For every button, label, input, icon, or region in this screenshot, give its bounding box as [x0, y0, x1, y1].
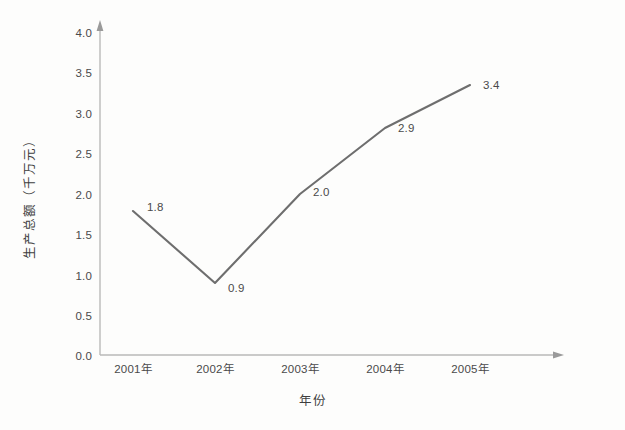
- point-label-2002: 0.9: [228, 282, 245, 294]
- x-axis-title: 年份: [0, 390, 625, 409]
- line-chart: 4.0 3.5 3.0 2.5 2.0 1.5 1.0 0.5 0.0 2001…: [0, 0, 625, 430]
- point-label-2003: 2.0: [313, 186, 330, 198]
- point-label-2005: 3.4: [483, 79, 500, 91]
- point-label-2004: 2.9: [398, 122, 415, 134]
- data-point-labels: 1.8 0.9 2.0 2.9 3.4: [0, 0, 625, 430]
- y-axis-title: 生产总额（千万元）: [19, 96, 38, 296]
- chart-page: 4.0 3.5 3.0 2.5 2.0 1.5 1.0 0.5 0.0 2001…: [0, 0, 625, 430]
- point-label-2001: 1.8: [147, 201, 164, 213]
